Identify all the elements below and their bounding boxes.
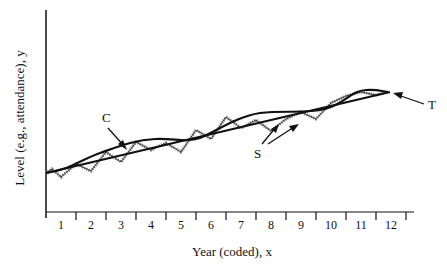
tick-label-1: 1 — [58, 218, 64, 232]
label-C: C — [102, 110, 111, 125]
tick-label-10: 10 — [325, 218, 337, 232]
y-axis-title: Level (e.g., attendance), y — [12, 50, 27, 186]
tick-label-6: 6 — [208, 218, 214, 232]
tick-label-5: 5 — [178, 218, 184, 232]
x-axis-title: Year (coded), x — [192, 244, 272, 259]
arrow-T-head — [393, 92, 403, 99]
tick-label-7: 7 — [238, 218, 244, 232]
label-S: S — [254, 146, 261, 161]
arrow-S2-head — [289, 124, 299, 132]
tick-label-4: 4 — [148, 218, 154, 232]
tick-label-3: 3 — [118, 218, 124, 232]
tick-label-9: 9 — [298, 218, 304, 232]
arrow-T-line — [398, 95, 424, 104]
chart-canvas: 1 2 3 4 5 6 7 8 9 10 11 12 Year (coded),… — [0, 0, 447, 272]
tick-label-11: 11 — [355, 218, 367, 232]
tick-label-12: 12 — [385, 218, 397, 232]
tick-label-2: 2 — [88, 218, 94, 232]
x-tick-labels: 1 2 3 4 5 6 7 8 9 10 11 12 — [58, 218, 397, 232]
tick-label-8: 8 — [268, 218, 274, 232]
label-T: T — [428, 97, 436, 112]
